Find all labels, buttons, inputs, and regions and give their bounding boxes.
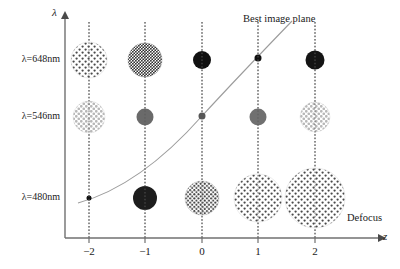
spot-480nm-z-1 [234, 174, 282, 222]
tick-label-two: 2 [300, 245, 330, 257]
best-image-plane-label: Best image plane [243, 13, 315, 24]
row-label-648nm: λ=648nm [0, 53, 60, 64]
spot-diagram-figure: λ λ=648nm λ=546nm λ=480nm −2 −1 0 1 2 Be… [0, 0, 400, 269]
tick-label-one: 1 [243, 245, 273, 257]
figure-canvas [0, 0, 400, 269]
spot-row-480nm [87, 168, 346, 228]
tick-label-minus1: −1 [130, 245, 160, 257]
tick-label-minus2: −2 [74, 245, 104, 257]
row-label-480nm: λ=480nm [0, 191, 60, 202]
x-axis-symbol: z [383, 230, 387, 242]
y-axis-symbol: λ [52, 6, 57, 18]
defocus-label: Defocus [347, 212, 382, 223]
x-axis-ticks [89, 238, 315, 243]
spot-row-648nm [71, 42, 325, 78]
tick-label-zero: 0 [187, 245, 217, 257]
spot-480nm-z-2 [285, 168, 345, 228]
row-label-546nm: λ=546nm [0, 110, 60, 121]
